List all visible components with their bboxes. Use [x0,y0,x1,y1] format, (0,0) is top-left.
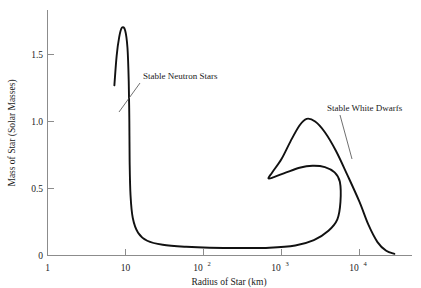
annotation-stable-neutron-stars: Stable Neutron Stars [119,71,218,112]
x-tick-label-10: 10 [121,263,131,273]
x-tick-marks [48,249,360,256]
y-tick-label-1-5: 1.5 [31,50,43,60]
x-tick-label-10000-mantissa: 10 [349,263,359,273]
white-dwarfs-label: Stable White Dwarfs [327,103,403,113]
x-tick-label-10000: 10 4 [349,260,367,273]
white-dwarfs-leader-line [340,115,352,159]
y-tick-label-0: 0 [38,251,43,261]
x-tick-label-1000: 10 3 [271,260,288,273]
x-tick-label-100-exponent: 2 [207,260,210,267]
y-tick-labels: 0 0.5 1.0 1.5 [31,50,43,261]
x-axis-title: Radius of Star (km) [191,277,266,288]
annotation-stable-white-dwarfs: Stable White Dwarfs [327,103,403,159]
y-tick-marks [48,55,55,256]
x-tick-label-100: 10 2 [193,260,210,273]
axes-group [48,10,413,256]
mass-radius-chart: 0 0.5 1.0 1.5 1 10 10 2 10 3 [0,0,421,288]
x-tick-label-1000-exponent: 3 [285,260,288,267]
y-axis-title: Mass of Star (Solar Masses) [7,79,18,186]
neutron-stars-label: Stable Neutron Stars [143,71,218,81]
x-tick-labels: 1 10 10 2 10 3 10 4 [45,260,367,273]
y-tick-label-1-0: 1.0 [31,117,43,127]
x-tick-label-1: 1 [45,263,50,273]
chart-svg: 0 0.5 1.0 1.5 1 10 10 2 10 3 [0,0,421,288]
x-tick-label-1000-mantissa: 10 [271,263,281,273]
x-tick-label-10000-exponent: 4 [363,260,367,267]
y-tick-label-0-5: 0.5 [31,184,43,194]
x-tick-label-100-mantissa: 10 [193,263,203,273]
mass-radius-curve [114,27,394,254]
